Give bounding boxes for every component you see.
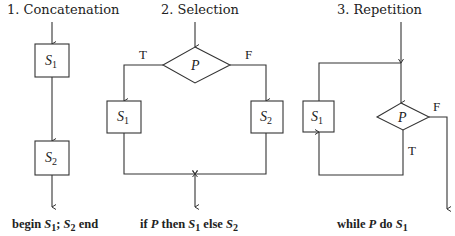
caption-selection: if P then S1 else S2 [140,217,238,233]
panel-selection: 2. Selection P T F S1 S2 if P then S1 el… [107,2,283,233]
block-s1: S1 [107,101,141,133]
false-label: F [245,47,252,62]
svg-text:P: P [397,110,407,125]
true-label: T [139,47,147,62]
panel-repetition: 3. Repetition S1 P F T while P do S1 [303,2,447,233]
panel-title: 3. Repetition [337,2,423,17]
true-label: T [408,143,416,158]
panel-concatenation: 1. Concatenation S1 S2 begin S1; S2 end [7,2,120,233]
false-label: F [433,99,440,114]
panel-title: 2. Selection [161,2,239,17]
block-s2: S2 [251,101,283,133]
block-s1: S1 [35,44,69,77]
caption-repetition: while P do S1 [337,217,408,233]
true-branch [124,65,163,101]
loop-return [319,63,401,101]
merge-left [124,133,195,174]
decision-p: P [163,47,230,83]
false-exit [429,117,447,209]
merge-right [195,133,266,174]
false-branch [230,65,266,101]
true-loop [319,130,403,175]
block-s1: S1 [303,101,334,132]
decision-p: P [377,103,429,130]
structured-programming-diagram: 1. Concatenation S1 S2 begin S1; S2 end … [0,0,455,236]
block-s2: S2 [35,141,69,175]
panel-title: 1. Concatenation [7,2,120,17]
svg-text:P: P [190,58,200,73]
caption-concatenation: begin S1; S2 end [12,217,98,233]
